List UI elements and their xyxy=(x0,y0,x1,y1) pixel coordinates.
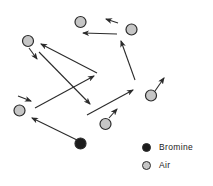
motion-arrow xyxy=(83,33,117,34)
motion-arrow xyxy=(106,19,118,23)
air-particle xyxy=(146,90,157,101)
legend-label-air: Air xyxy=(159,161,170,170)
motion-arrow xyxy=(29,48,37,59)
motion-arrow xyxy=(41,44,97,73)
motion-arrow xyxy=(109,109,117,118)
legend-item-bromine: Bromine xyxy=(140,138,193,156)
legend: Bromine Air xyxy=(140,138,193,174)
motion-arrow xyxy=(87,90,133,115)
motion-arrow xyxy=(39,52,90,104)
air-particle xyxy=(126,24,137,35)
legend-label-bromine: Bromine xyxy=(159,143,193,152)
motion-arrow xyxy=(35,76,94,108)
particle-layer xyxy=(14,17,157,150)
air-particle xyxy=(75,17,86,28)
air-particle xyxy=(23,36,34,47)
bromine-dot-icon xyxy=(142,143,151,152)
motion-arrow xyxy=(121,41,135,80)
legend-item-air: Air xyxy=(140,156,193,174)
air-dot-icon xyxy=(142,161,151,170)
bromine-particle xyxy=(75,138,86,149)
diagram-canvas: Bromine Air xyxy=(0,0,213,186)
air-particle xyxy=(100,119,111,130)
motion-arrow xyxy=(155,78,164,91)
motion-arrow xyxy=(32,118,77,140)
motion-arrow xyxy=(18,96,31,101)
air-particle xyxy=(14,105,25,116)
arrow-layer xyxy=(18,19,164,140)
